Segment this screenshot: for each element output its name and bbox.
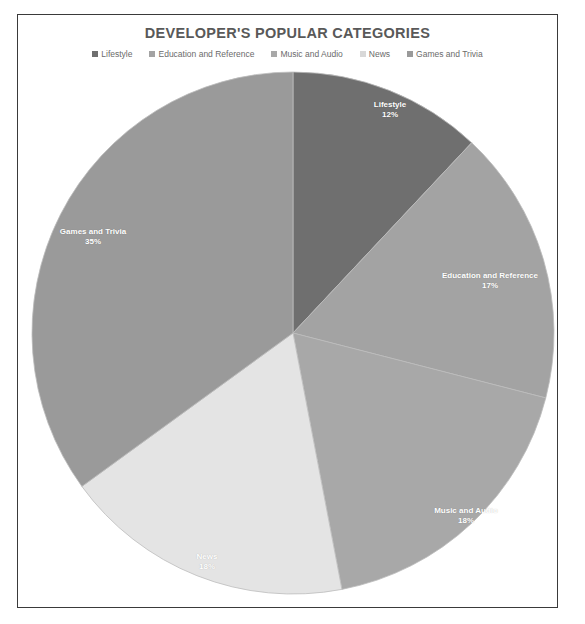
pie-chart-svg [0, 0, 585, 624]
pie-chart: Lifestyle12%Education and Reference17%Mu… [0, 0, 585, 624]
